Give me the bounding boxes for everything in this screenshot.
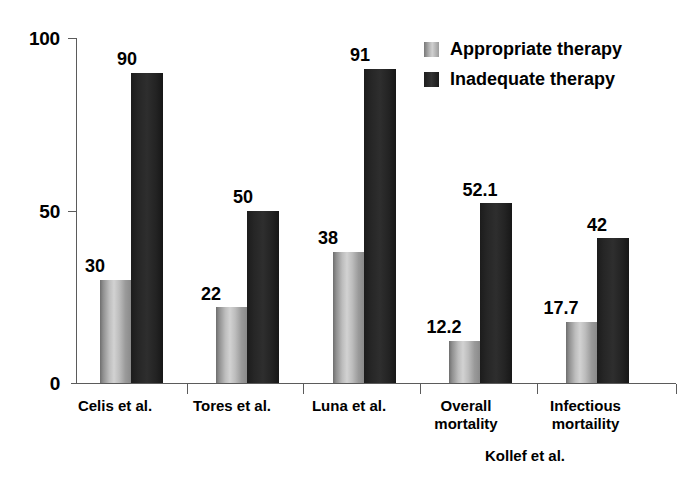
y-axis-label-0: 0 [0, 374, 60, 393]
value-label-appropriate-infectious-mortality: 17.7 [537, 299, 585, 317]
value-label-inadequate-overall-mortality: 52.1 [456, 181, 504, 199]
value-label-inadequate-tores: 50 [223, 188, 263, 206]
value-label-appropriate-luna: 38 [308, 229, 348, 247]
value-label-inadequate-luna: 91 [340, 46, 380, 64]
bar-inadequate-tores [247, 211, 279, 384]
legend-label-inadequate-therapy: Inadequate therapy [450, 70, 615, 88]
x-axis-line [76, 383, 676, 384]
x-axis-group-separator [420, 384, 421, 394]
x-axis-category-tores: Tores et al. [177, 397, 287, 415]
x-axis-category-overall-mortality: Overall mortality [411, 397, 521, 432]
legend-swatch-inadequate-therapy [424, 72, 439, 87]
legend-swatch-appropriate-therapy [424, 42, 439, 57]
legend: Appropriate therapy Inadequate therapy [424, 34, 622, 94]
bar-appropriate-celis [100, 280, 131, 384]
bar-inadequate-celis [131, 73, 163, 384]
bar-inadequate-luna [364, 69, 396, 383]
x-axis-group-separator [676, 384, 677, 394]
x-axis-category-celis: Celis et al. [60, 397, 170, 415]
bar-chart: 100 50 0 30 90 22 50 38 91 12.2 52.1 17.… [0, 0, 683, 491]
x-axis-group-separator [187, 384, 188, 394]
bar-appropriate-luna [333, 252, 364, 383]
bar-appropriate-infectious-mortality [566, 322, 597, 383]
value-label-appropriate-tores: 22 [191, 285, 231, 303]
bar-appropriate-tores [216, 307, 247, 383]
value-label-inadequate-infectious-mortality: 42 [573, 216, 621, 234]
y-axis-label-50: 50 [0, 202, 60, 221]
x-axis-category-infectious-mortality: Infectious mortaility [528, 397, 643, 432]
bar-appropriate-overall-mortality [449, 341, 480, 383]
bar-inadequate-overall-mortality [480, 203, 512, 383]
value-label-appropriate-celis: 30 [75, 257, 115, 275]
legend-item-appropriate-therapy: Appropriate therapy [424, 34, 622, 64]
legend-label-appropriate-therapy: Appropriate therapy [450, 40, 622, 58]
x-axis-group-separator [537, 384, 538, 394]
bar-inadequate-infectious-mortality [597, 238, 629, 383]
x-axis-group-annotation-kollef: Kollef et al. [410, 448, 640, 463]
y-axis-label-100: 100 [0, 29, 60, 48]
legend-item-inadequate-therapy: Inadequate therapy [424, 64, 622, 94]
x-axis-category-luna: Luna et al. [294, 397, 404, 415]
value-label-inadequate-celis: 90 [107, 50, 147, 68]
x-axis-group-separator [303, 384, 304, 394]
value-label-appropriate-overall-mortality: 12.2 [420, 318, 468, 336]
